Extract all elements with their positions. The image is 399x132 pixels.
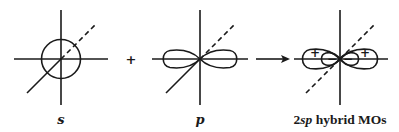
sign-inner-right: − — [343, 52, 353, 66]
s-label: s — [57, 112, 65, 127]
p-y-axis-back — [200, 25, 234, 59]
sign-outer-left: + — [310, 46, 320, 60]
reaction-arrow — [256, 55, 290, 63]
sign-outer-right: + — [360, 46, 370, 60]
hybrid-label-suffix: hybrid MOs — [312, 112, 386, 127]
s-y-axis-front — [27, 59, 61, 93]
s-y-axis-back — [61, 25, 95, 59]
p-label: p — [195, 112, 204, 127]
plus-operator: + — [126, 52, 137, 67]
hybrid-label-sp: sp — [299, 112, 312, 127]
s-orbital-panel: s — [14, 10, 108, 127]
hybrid-orbital-panel: + − − + 2sp hybrid MOs — [293, 10, 388, 127]
hybrid-label: 2sp hybrid MOs — [293, 112, 386, 127]
orbital-diagram: s + p + − − + 2sp hybrid MOs — [0, 0, 399, 132]
sign-inner-left: − — [327, 52, 337, 66]
p-orbital-panel: p — [152, 10, 248, 127]
p-y-axis-front — [166, 59, 200, 93]
